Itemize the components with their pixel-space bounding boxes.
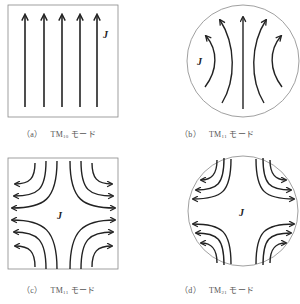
current-arrows: [25, 15, 97, 107]
current-arrows: [205, 17, 282, 109]
waveguide-outline-square: [8, 158, 118, 269]
panel-b-tm11-circle: J: [187, 5, 299, 117]
current-density-label: J: [56, 210, 63, 221]
caption-a: （a）TM10 モード: [22, 128, 96, 139]
current-density-label: J: [238, 207, 245, 218]
panel-a-tm10-square: J: [8, 5, 118, 117]
panel-d-tm21-circle: J: [188, 156, 298, 266]
panel-c-tm11-square: J: [8, 158, 118, 269]
mode-name: TM11 モード: [50, 286, 95, 295]
mode-name: TM10 モード: [50, 130, 95, 139]
mode-name: TM11 モード: [209, 130, 254, 139]
caption-c: （c）TM11 モード: [22, 284, 96, 295]
caption-d: （d）TM21 モード: [180, 284, 254, 295]
mode-name: TM21 モード: [209, 286, 254, 295]
caption-letter: （b）: [180, 130, 201, 139]
current-density-label: J: [196, 56, 203, 67]
tm-mode-diagram: J J: [0, 0, 300, 304]
current-density-label: J: [102, 29, 109, 40]
caption-letter: （c）: [22, 286, 42, 295]
caption-b: （b）TM11 モード: [180, 128, 254, 139]
caption-letter: （a）: [22, 130, 42, 139]
caption-letter: （d）: [180, 286, 201, 295]
current-arrows: [12, 161, 115, 269]
